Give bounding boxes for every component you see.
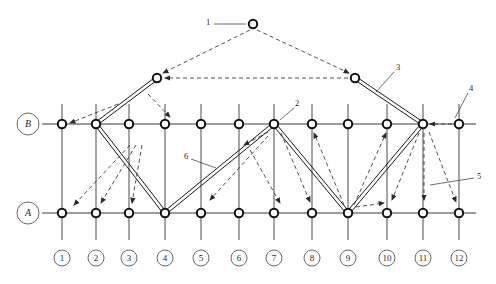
member-zig-2-edge-a <box>166 125 275 214</box>
node-b-8 <box>308 120 316 128</box>
callout-leader-layer <box>191 24 474 185</box>
column-label-text-8: 8 <box>310 253 315 263</box>
node-a-10 <box>383 209 391 217</box>
node-apex <box>249 20 257 28</box>
column-label-text-3: 3 <box>127 253 132 263</box>
column-label-text-4: 4 <box>163 253 168 263</box>
column-label-layer: 123456789101112 <box>54 250 467 266</box>
arrow-a9-to-b8 <box>314 133 344 205</box>
node-a-3 <box>125 209 133 217</box>
arrow-a9-to-b10 <box>354 133 386 205</box>
node-b-10 <box>383 120 391 128</box>
arrow-a9-to-a10 <box>356 203 384 207</box>
node-a-7 <box>270 209 278 217</box>
callout-label-6: 6 <box>184 151 188 161</box>
callout-leader-4 <box>455 93 468 118</box>
arrow-apex-to-upper-left <box>163 30 250 73</box>
node-b-7 <box>270 120 278 128</box>
column-label-text-9: 9 <box>346 253 351 263</box>
callout-leader-2 <box>280 108 294 120</box>
column-label-10: 10 <box>379 250 395 266</box>
node-a-8 <box>308 209 316 217</box>
node-a-6 <box>235 209 243 217</box>
arrow-mid-to-a4 <box>132 145 142 203</box>
member-zig-2-edge-b <box>164 123 273 212</box>
node-b-11 <box>419 120 427 128</box>
column-label-5: 5 <box>193 250 209 266</box>
column-label-text-2: 2 <box>94 253 99 263</box>
column-label-text-1: 1 <box>60 253 65 263</box>
member-left-raker-edge-b <box>95 77 156 123</box>
column-label-1: 1 <box>54 250 70 266</box>
node-a-4 <box>161 209 169 217</box>
truss-member-layer <box>95 77 425 215</box>
callout-label-3: 3 <box>396 62 400 72</box>
arrow-mid-to-a3 <box>101 145 136 203</box>
column-label-text-10: 10 <box>383 253 393 263</box>
arrow-6-to-a7 <box>250 150 280 203</box>
node-layer <box>58 20 463 217</box>
node-b-9 <box>344 120 352 128</box>
node-b-4 <box>161 120 169 128</box>
callout-label-4: 4 <box>469 83 474 93</box>
callout-label-layer: 123456 <box>184 17 481 181</box>
arrow-b11-to-a12 <box>429 132 456 202</box>
arrow-n7-to-a8 <box>281 133 310 202</box>
flow-arrow-layer <box>70 30 456 207</box>
node-a-5 <box>197 209 205 217</box>
column-label-text-7: 7 <box>272 253 277 263</box>
column-label-3: 3 <box>121 250 137 266</box>
callout-label-1: 1 <box>206 17 210 27</box>
member-left-raker-edge-a <box>97 79 158 125</box>
column-label-text-6: 6 <box>237 253 242 263</box>
callout-leader-3 <box>376 72 394 92</box>
column-label-8: 8 <box>304 250 320 266</box>
row-label-text-a: A <box>24 207 32 218</box>
column-label-4: 4 <box>157 250 173 266</box>
node-b-12 <box>455 120 463 128</box>
node-a-9 <box>344 209 352 217</box>
column-label-text-12: 12 <box>455 253 464 263</box>
node-b-1 <box>58 120 66 128</box>
truss-diagram: BA 123456789101112 123456 <box>0 0 496 284</box>
member-right-raker-edge-b <box>356 77 424 123</box>
node-a-1 <box>58 209 66 217</box>
node-b-6 <box>235 120 243 128</box>
truss-diagram-canvas: BA 123456789101112 123456 <box>0 0 496 284</box>
member-left-raker <box>95 77 158 126</box>
member-right-raker <box>354 77 424 126</box>
column-label-7: 7 <box>266 250 282 266</box>
row-label-b: B <box>17 113 39 135</box>
callout-leader-5 <box>430 178 474 185</box>
member-zig-3 <box>273 123 350 214</box>
member-zig-4-edge-b <box>347 123 422 212</box>
member-zig-4 <box>347 123 425 214</box>
node-a-2 <box>92 209 100 217</box>
callout-label-5: 5 <box>477 171 481 181</box>
column-label-11: 11 <box>415 250 431 266</box>
node-b-2 <box>92 120 100 128</box>
row-label-a: A <box>17 202 39 224</box>
column-label-9: 9 <box>340 250 356 266</box>
row-label-layer: BA <box>17 113 39 224</box>
member-zig-1 <box>95 123 167 214</box>
node-upper-left <box>153 74 161 82</box>
node-b-3 <box>125 120 133 128</box>
arrow-b11-to-a10 <box>392 133 419 200</box>
arrow-apex-to-upper-right <box>257 30 349 73</box>
node-a-12 <box>455 209 463 217</box>
column-label-text-5: 5 <box>199 253 204 263</box>
node-b-5 <box>197 120 205 128</box>
column-label-12: 12 <box>451 250 467 266</box>
node-upper-right <box>351 74 359 82</box>
row-label-text-b: B <box>25 118 31 129</box>
column-label-6: 6 <box>231 250 247 266</box>
callout-leader-6 <box>191 159 216 168</box>
column-label-text-11: 11 <box>419 253 428 263</box>
node-a-11 <box>419 209 427 217</box>
arrow-upperleft-to-nodeB4 <box>148 94 170 117</box>
member-right-raker-edge-a <box>354 79 422 125</box>
column-label-2: 2 <box>88 250 104 266</box>
member-zig-1-edge-b <box>97 123 166 212</box>
member-zig-2 <box>164 123 275 215</box>
